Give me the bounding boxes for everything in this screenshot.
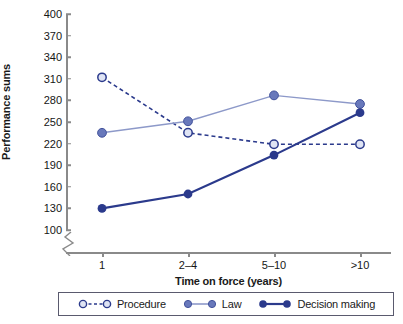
chart-container: Performance sums 10013016019022025028031… xyxy=(0,0,403,324)
data-point[interactable] xyxy=(356,108,365,117)
x-tick-label: >10 xyxy=(351,260,370,271)
data-point[interactable] xyxy=(98,204,107,213)
data-point[interactable] xyxy=(98,73,106,81)
y-axis-title-text: Performance sums xyxy=(0,32,12,192)
series-line xyxy=(102,95,360,132)
y-tick-label: 220 xyxy=(44,138,62,149)
legend-item-procedure[interactable]: Procedure xyxy=(77,298,166,310)
y-tick-label: 370 xyxy=(44,30,62,41)
data-series-layer xyxy=(66,10,391,260)
series-decision-making xyxy=(98,108,365,213)
y-tick-label: 310 xyxy=(44,73,62,84)
data-point[interactable] xyxy=(184,129,192,137)
legend-swatch-procedure xyxy=(77,298,113,310)
y-tick-label: 160 xyxy=(44,181,62,192)
y-tick-label: 130 xyxy=(44,203,62,214)
legend-item-decision-making[interactable]: Decision making xyxy=(257,298,375,310)
y-tick-label: 280 xyxy=(44,95,62,106)
chart-legend: Procedure Law Decision making xyxy=(58,292,394,316)
x-tick-label: 5–10 xyxy=(262,260,286,271)
legend-label-law: Law xyxy=(222,298,242,310)
x-tick-label: 2–4 xyxy=(179,260,197,271)
y-tick-label: 400 xyxy=(44,9,62,20)
plot-area: 100130160190220250280310340370400 12–45–… xyxy=(66,10,391,226)
data-point[interactable] xyxy=(356,100,365,109)
y-tick-label: 190 xyxy=(44,160,62,171)
data-point[interactable] xyxy=(98,128,107,137)
data-point[interactable] xyxy=(184,117,193,126)
series-line xyxy=(102,77,360,144)
legend-item-law[interactable]: Law xyxy=(182,298,242,310)
series-procedure xyxy=(98,73,364,148)
data-point[interactable] xyxy=(270,151,279,160)
data-point[interactable] xyxy=(270,140,278,148)
y-tick-label: 340 xyxy=(44,52,62,63)
legend-label-procedure: Procedure xyxy=(117,298,166,310)
data-point[interactable] xyxy=(270,91,279,100)
legend-label-decision-making: Decision making xyxy=(297,298,375,310)
x-axis-title: Time on force (years) xyxy=(66,275,391,287)
data-point[interactable] xyxy=(184,190,193,199)
data-point[interactable] xyxy=(356,140,364,148)
legend-swatch-law xyxy=(182,298,218,310)
x-tick-label: 1 xyxy=(99,260,105,271)
legend-swatch-decision-making xyxy=(257,298,293,310)
y-tick-label: 100 xyxy=(44,225,62,236)
y-tick-label: 250 xyxy=(44,117,62,128)
